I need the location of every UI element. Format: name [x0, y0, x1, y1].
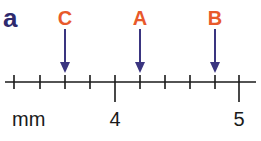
marker-a: A	[133, 7, 147, 73]
marker-b: B	[208, 7, 222, 73]
ruler-diagram: a C A B mm 4 5	[0, 0, 261, 141]
unit-label: mm	[12, 108, 45, 130]
marker-c: C	[58, 7, 72, 73]
arrowhead-icon	[60, 62, 70, 73]
marker-label-a: A	[133, 7, 147, 29]
ruler-axis	[5, 75, 256, 102]
marker-label-c: C	[58, 7, 72, 29]
panel-label: a	[3, 3, 18, 33]
arrowhead-icon	[135, 62, 145, 73]
marker-label-b: B	[208, 7, 222, 29]
arrowhead-icon	[210, 62, 220, 73]
tick-label-5: 5	[233, 108, 244, 130]
tick-label-4: 4	[109, 108, 120, 130]
